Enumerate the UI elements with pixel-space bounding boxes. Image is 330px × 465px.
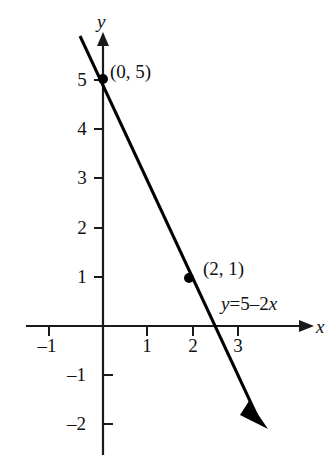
x-tick-label--1: –1 [33,336,61,355]
y-tick-label-3: 3 [74,168,90,187]
y-tick-label-2: 2 [74,218,90,237]
y-tick-label-5: 5 [74,70,90,89]
equation-minus-sign: – [250,293,260,314]
y-tick-label--1: –1 [63,365,90,384]
x-axis-arrowhead [299,320,314,332]
x-axis [26,320,314,332]
point-label-0-5: (0, 5) [110,62,151,81]
line-y-equals-5-minus-2x [80,36,268,429]
y-axis-label: y [97,12,105,31]
line-segment [80,36,257,416]
equation-coefficient: 2 [259,293,269,314]
x-tick-label-3: 3 [230,336,246,355]
equation-variable: x [269,293,277,314]
y-tick-label-4: 4 [74,119,90,138]
x-tick-label-2: 2 [185,336,201,355]
point-label-2-1: (2, 1) [203,259,244,278]
graph-figure: y x 5 4 3 2 1 –1 –2 –1 1 2 3 (0, 5) (2, … [0,0,330,465]
line-arrowhead [240,401,268,429]
y-tick-label-1: 1 [74,267,90,286]
data-point-0-5 [98,74,108,84]
coordinate-plane-svg [0,0,330,465]
x-tick-label-1: 1 [139,336,155,355]
equation-label: y=5–2x [221,294,277,313]
x-axis-label: x [316,317,324,336]
y-axis-arrowhead [97,32,109,46]
y-tick-label--2: –2 [63,414,90,433]
equation-equals: = [229,293,240,314]
equation-constant: 5 [240,293,250,314]
data-point-2-1 [184,273,194,283]
